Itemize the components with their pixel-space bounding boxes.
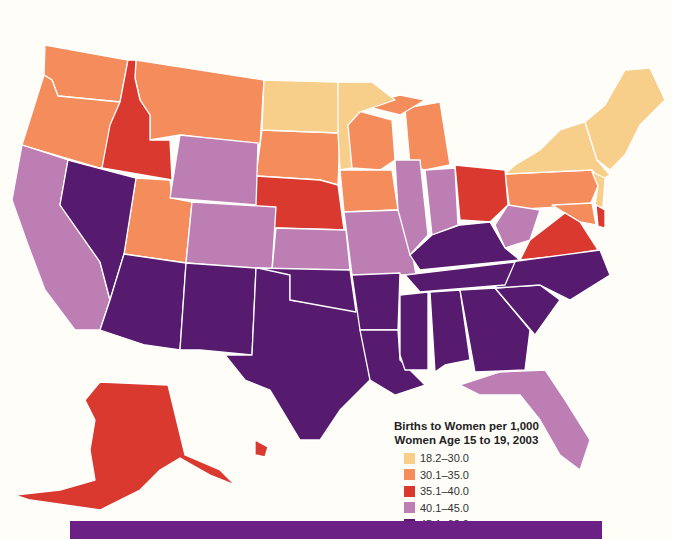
legend-item: 18.2–30.0 <box>404 450 559 467</box>
state-montana <box>135 60 264 145</box>
state-indiana <box>425 168 458 235</box>
footer-color-bar <box>70 521 602 539</box>
legend-item: 40.1–45.0 <box>404 500 559 517</box>
legend-item: 30.1–35.0 <box>404 467 559 484</box>
legend-title-line2: Women Age 15 to 19, 2003 <box>374 433 559 447</box>
state-new-england <box>585 68 665 170</box>
state-mississippi <box>400 292 428 370</box>
legend-label: 35.1–40.0 <box>420 485 469 497</box>
state-wyoming <box>170 135 258 205</box>
state-iowa <box>340 170 398 212</box>
state-kansas <box>272 228 350 270</box>
legend-label: 30.1–35.0 <box>420 469 469 481</box>
legend-item: 35.1–40.0 <box>404 483 559 500</box>
state-colorado <box>186 202 276 270</box>
legend-swatch <box>404 502 415 513</box>
legend-swatch <box>404 469 415 480</box>
state-new-mexico <box>180 263 256 355</box>
legend-title-line1: Births to Women per 1,000 <box>374 419 559 433</box>
state-hawaii <box>255 440 268 457</box>
legend-swatch <box>404 486 415 497</box>
us-choropleth-map <box>0 0 673 539</box>
legend-label: 40.1–45.0 <box>420 502 469 514</box>
state-ohio <box>455 165 508 222</box>
state-north-dakota <box>262 80 340 133</box>
state-arkansas <box>352 273 400 330</box>
legend: Births to Women per 1,000 Women Age 15 t… <box>384 419 559 533</box>
legend-title: Births to Women per 1,000 Women Age 15 t… <box>374 419 559 447</box>
state-alaska <box>15 382 235 510</box>
legend-swatch <box>404 453 415 464</box>
legend-label: 18.2–30.0 <box>420 452 469 464</box>
state-delaware <box>596 205 605 228</box>
